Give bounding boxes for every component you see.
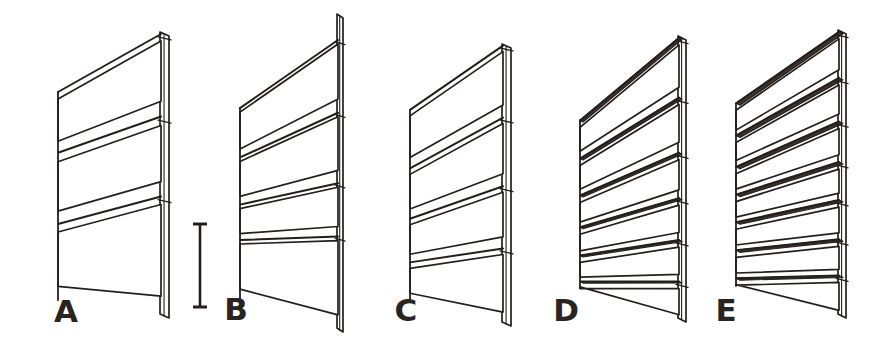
panel-label-d: D bbox=[553, 292, 579, 328]
slat-face bbox=[580, 247, 679, 277]
panel-label-e: E bbox=[715, 292, 736, 328]
slat-face bbox=[58, 41, 161, 141]
panel-e bbox=[736, 30, 848, 318]
slat-top-rail bbox=[240, 237, 338, 240]
slat-face bbox=[410, 254, 503, 312]
panels-layer bbox=[58, 14, 848, 332]
panel-label-c: C bbox=[395, 292, 418, 328]
panel-b bbox=[240, 14, 345, 332]
panel-label-b: B bbox=[224, 291, 248, 327]
panel-c bbox=[410, 44, 513, 326]
slat-face bbox=[580, 287, 679, 315]
figure-canvas: ABCDE bbox=[0, 0, 896, 343]
panel-a bbox=[58, 32, 171, 318]
slat-face bbox=[58, 205, 161, 297]
slat-face bbox=[58, 125, 161, 211]
figure-drawing: ABCDE bbox=[0, 0, 896, 343]
slat-face bbox=[240, 241, 338, 315]
panel-label-a: A bbox=[54, 293, 78, 329]
panel-d bbox=[580, 36, 688, 322]
slat-face bbox=[736, 282, 839, 310]
scale-bar bbox=[193, 224, 207, 307]
